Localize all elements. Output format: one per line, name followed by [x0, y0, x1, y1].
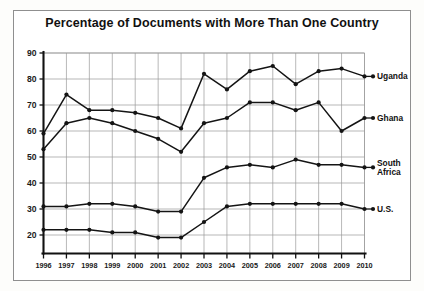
data-point	[248, 69, 252, 73]
data-point	[202, 72, 206, 76]
data-point	[87, 202, 91, 206]
series-legend: UgandaGhanaSouthAfricaU.S.	[365, 71, 409, 214]
x-tick-label: 2003	[196, 261, 212, 270]
x-tick-label: 2008	[311, 261, 327, 270]
data-point	[225, 204, 229, 208]
data-point	[41, 204, 45, 208]
data-point	[294, 82, 298, 86]
data-point	[248, 202, 252, 206]
x-tick-label: 2006	[265, 261, 281, 270]
data-point	[156, 236, 160, 240]
line-chart-plot: 9080706050403020 19961997199819992000200…	[0, 0, 424, 291]
y-tick-label: 50	[27, 152, 37, 162]
legend-marker	[371, 207, 375, 211]
data-point	[87, 108, 91, 112]
x-tick-label: 2004	[219, 261, 236, 270]
data-point	[156, 137, 160, 141]
data-point	[110, 108, 114, 112]
data-point	[110, 202, 114, 206]
data-point	[41, 147, 45, 151]
data-point	[317, 202, 321, 206]
data-point	[64, 121, 68, 125]
data-point	[110, 230, 114, 234]
x-tick-label: 1996	[35, 261, 51, 270]
data-point	[41, 228, 45, 232]
data-point	[64, 204, 68, 208]
data-point	[133, 230, 137, 234]
y-tick-label: 40	[27, 178, 37, 188]
data-point	[64, 93, 68, 97]
x-tick-label: 1997	[58, 261, 74, 270]
y-tick-label: 60	[27, 126, 37, 136]
data-point	[225, 116, 229, 120]
legend-marker	[371, 74, 375, 78]
legend-label-south-africa: Africa	[377, 167, 401, 177]
y-tick-label: 30	[27, 204, 37, 214]
data-point	[41, 132, 45, 136]
x-tick-label: 2002	[173, 261, 189, 270]
y-tick-label: 90	[27, 48, 37, 58]
data-point	[294, 158, 298, 162]
data-point	[202, 220, 206, 224]
y-tick-label: 80	[27, 74, 37, 84]
legend-label-u-s: U.S.	[377, 204, 393, 214]
legend-label-uganda: Uganda	[377, 71, 408, 81]
y-tick-label: 20	[27, 230, 37, 240]
data-point	[339, 202, 343, 206]
data-point	[317, 163, 321, 167]
x-tick-label: 2000	[127, 261, 143, 270]
x-axis-labels: 1996199719981999200020012002200320042005…	[35, 261, 372, 270]
data-point	[271, 64, 275, 68]
legend-label-south-africa: South	[377, 158, 401, 168]
legend-label-ghana: Ghana	[377, 113, 403, 123]
data-point	[317, 69, 321, 73]
legend-marker	[371, 165, 375, 169]
legend-marker	[371, 116, 375, 120]
x-tick-label: 1999	[104, 261, 120, 270]
y-axis-labels: 9080706050403020	[27, 48, 37, 240]
data-point	[64, 228, 68, 232]
x-tick-label: 2001	[150, 261, 166, 270]
tickmarks-group	[40, 53, 365, 259]
y-tick-label: 70	[27, 100, 37, 110]
data-point	[294, 202, 298, 206]
data-point	[179, 236, 183, 240]
data-point	[133, 129, 137, 133]
data-point	[179, 150, 183, 154]
data-point	[294, 108, 298, 112]
chart-figure: Percentage of Documents with More Than O…	[0, 0, 424, 291]
data-point	[271, 202, 275, 206]
data-point	[179, 126, 183, 130]
data-point	[225, 87, 229, 91]
data-point	[271, 165, 275, 169]
data-point	[202, 176, 206, 180]
data-point	[87, 116, 91, 120]
x-tick-label: 2009	[333, 261, 349, 270]
data-point	[202, 121, 206, 125]
data-point	[179, 210, 183, 214]
data-point	[248, 163, 252, 167]
data-point	[110, 121, 114, 125]
data-point	[156, 116, 160, 120]
data-point	[133, 204, 137, 208]
data-point	[156, 210, 160, 214]
x-tick-label: 2005	[242, 261, 258, 270]
data-point	[87, 228, 91, 232]
x-tick-label: 2007	[288, 261, 304, 270]
data-point	[339, 129, 343, 133]
data-point	[133, 111, 137, 115]
data-point	[271, 100, 275, 104]
data-point	[248, 100, 252, 104]
x-tick-label: 1998	[81, 261, 97, 270]
x-tick-label: 2010	[356, 261, 372, 270]
data-point	[317, 100, 321, 104]
data-point	[339, 67, 343, 71]
data-point	[339, 163, 343, 167]
data-point	[225, 165, 229, 169]
